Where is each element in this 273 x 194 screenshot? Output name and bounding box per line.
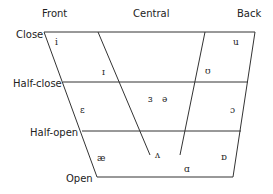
vowel-script-a: ɑ <box>184 165 190 174</box>
vowel-reversed-epsilon: ɜ <box>148 95 153 104</box>
vowel-turned-v: ʌ <box>155 151 160 160</box>
column-label-front: Front <box>42 9 67 19</box>
vowel-open-o: ɔ <box>230 106 235 115</box>
vowel-schwa: ə <box>162 95 167 104</box>
front-edge <box>44 32 97 177</box>
row-label-half-close: Half-close <box>13 79 62 89</box>
vowel-ash: æ <box>97 154 105 163</box>
vowel-upsilon: ʊ <box>205 67 211 76</box>
central-left-divider <box>98 32 150 155</box>
vowel-epsilon: ɛ <box>80 106 85 115</box>
column-label-central: Central <box>133 9 169 19</box>
vowel-turned-script-a: ɒ <box>221 153 227 162</box>
vowel-u: u <box>233 38 239 47</box>
row-label-close: Close <box>16 30 43 40</box>
vowel-i: i <box>55 38 58 47</box>
vowel-small-cap-i: ɪ <box>102 68 105 77</box>
row-label-half-open: Half-open <box>30 128 78 138</box>
row-label-open: Open <box>66 174 93 184</box>
back-edge <box>233 32 255 177</box>
central-right-divider <box>180 32 205 155</box>
column-label-back: Back <box>237 9 261 19</box>
